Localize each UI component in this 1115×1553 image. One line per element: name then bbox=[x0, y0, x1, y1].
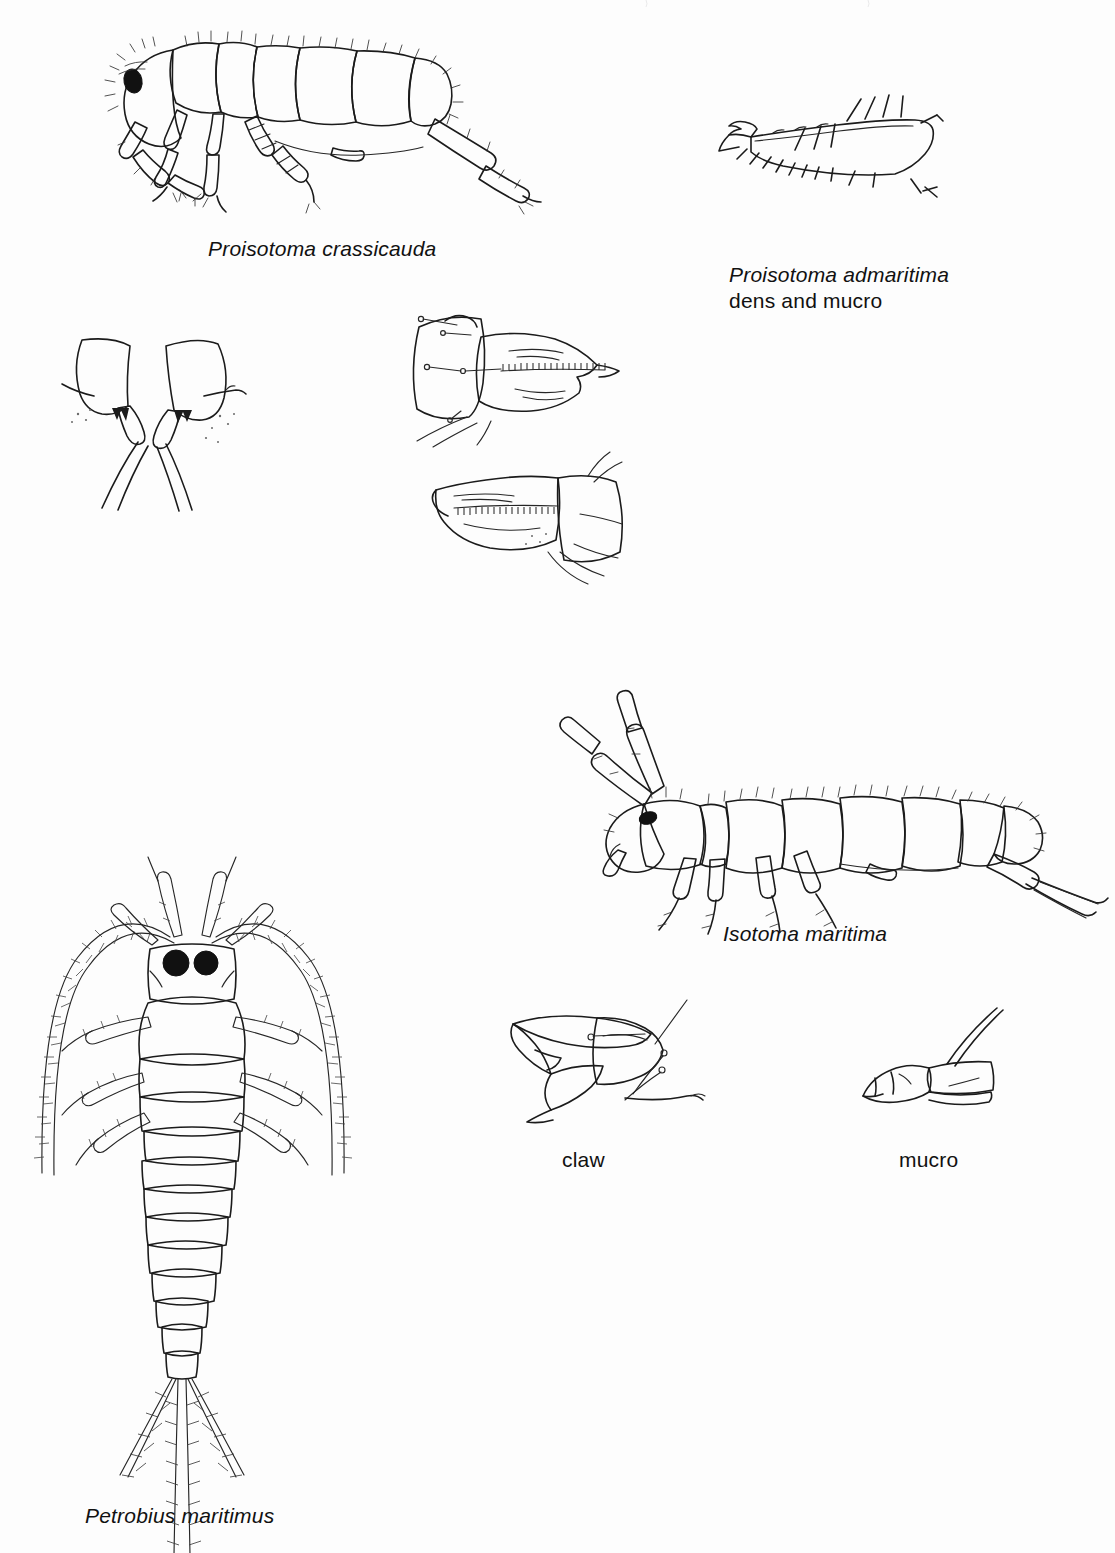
serrated-lamella bbox=[454, 505, 558, 515]
figure-proisotoma-admaritima-dens-mucro bbox=[715, 95, 975, 205]
figure-isotoma-mucro bbox=[845, 1008, 1035, 1128]
stipple-dots bbox=[525, 533, 547, 545]
figure-dens-mucro-lower bbox=[428, 452, 653, 592]
body-segments bbox=[700, 797, 1043, 873]
head bbox=[119, 50, 181, 146]
caption-proisotoma-crassicauda: Proisotoma crassicauda bbox=[208, 236, 437, 262]
caption-proisotoma-admaritima: Proisotoma admaritima dens and mucro bbox=[729, 236, 949, 340]
furca bbox=[428, 115, 541, 214]
caption-isotoma-maritima: Isotoma maritima bbox=[723, 921, 887, 947]
dorsal-setae bbox=[708, 785, 1046, 851]
label-mucro: mucro bbox=[899, 1148, 958, 1172]
serrated-lamella bbox=[501, 363, 605, 371]
right-dens-base bbox=[166, 340, 226, 420]
label-claw: claw bbox=[562, 1148, 605, 1172]
dens-dorsal-setae bbox=[795, 95, 943, 150]
mucro-tip bbox=[729, 122, 757, 138]
legs bbox=[153, 110, 320, 213]
figure-isotoma-maritima bbox=[548, 698, 1093, 898]
caption-petrobius-maritimus: Petrobius maritimus bbox=[85, 1503, 274, 1529]
head bbox=[603, 787, 705, 876]
compound-eye-left bbox=[163, 950, 189, 976]
dental-seta bbox=[947, 1008, 997, 1064]
maxillary-palps bbox=[111, 857, 273, 945]
dens-end bbox=[927, 1062, 993, 1094]
legs bbox=[62, 1015, 322, 1165]
compound-eye-right bbox=[194, 951, 218, 975]
figure-furca-base bbox=[60, 330, 260, 515]
dorsal-setae bbox=[185, 31, 463, 118]
antenna-setae-left bbox=[34, 916, 150, 1158]
figure-petrobius-maritimus bbox=[20, 845, 360, 1485]
body-segments bbox=[170, 43, 452, 126]
figure-dens-mucro-upper bbox=[405, 313, 640, 448]
caption-species: Proisotoma admaritima bbox=[729, 263, 949, 286]
antennae bbox=[560, 691, 664, 806]
dens-tubercled bbox=[558, 476, 623, 562]
left-dens-base bbox=[76, 339, 130, 414]
scan-artifact bbox=[0, 0, 1115, 10]
ventral-line bbox=[275, 141, 423, 155]
figure-isotoma-claw bbox=[505, 1000, 720, 1125]
head-capsule bbox=[148, 944, 236, 1004]
antenna-setae-right bbox=[236, 916, 352, 1158]
abdomen-segments bbox=[142, 1127, 240, 1379]
caption-part: dens and mucro bbox=[729, 288, 949, 314]
figure-proisotoma-crassicauda bbox=[95, 18, 565, 218]
mucro-body bbox=[436, 476, 560, 549]
tibiotarsus bbox=[593, 1018, 663, 1085]
unguis-hook bbox=[511, 1024, 551, 1074]
